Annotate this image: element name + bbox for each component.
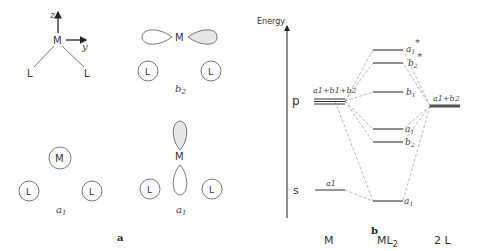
orbital-a1-s: M L L a1 (19, 147, 102, 217)
s-level-label: a1 (326, 179, 336, 188)
a1s-ligand-right: L (89, 187, 94, 197)
a1s-metal-label: M (55, 153, 64, 164)
correlation-lines (335, 50, 430, 201)
lobe-top-icon (173, 121, 187, 150)
energy-axis: Energy (257, 17, 287, 218)
y-axis-label: y (81, 41, 88, 52)
metal-levels: p a1+b1+b2 s a1 M (292, 86, 357, 247)
a1s-ligand-left: L (26, 187, 31, 197)
label-b2: b2 (405, 137, 415, 148)
bond-right (62, 46, 84, 67)
mo-diagram-figure: z y M L L M L L b2 M L L a1 M L L a1 (0, 0, 477, 251)
b2-ligand-left: L (145, 67, 150, 77)
orbital-b2: M L L b2 (138, 30, 221, 96)
coordinate-frame: z y M L L (27, 9, 90, 79)
ligand-level-label: a1+b2 (433, 94, 460, 103)
energy-axis-label: Energy (257, 17, 285, 26)
b2-metal-label: M (175, 32, 184, 43)
ligand-column-label: 2 L (434, 234, 451, 247)
label-b2-star: b2* (408, 52, 423, 69)
a1s-symmetry-label: a1 (56, 204, 66, 217)
label-b1: b1 (406, 87, 416, 98)
a1p-ligand-right: L (209, 185, 214, 195)
s-label: s (293, 184, 299, 197)
p-label: p (292, 94, 300, 108)
z-axis-label: z (49, 9, 56, 20)
ligand-left-label: L (27, 68, 33, 79)
panel-a-caption: a (117, 232, 124, 243)
lobe-right-icon (188, 30, 217, 44)
label-a1: a1 (405, 124, 414, 135)
p-level-label: a1+b1+b2 (313, 86, 357, 95)
metal-column-label: M (324, 234, 334, 247)
a1p-ligand-left: L (147, 185, 152, 195)
b2-ligand-right: L (208, 67, 213, 77)
bond-left (34, 46, 54, 67)
a1p-symmetry-label: a1 (176, 204, 186, 217)
ligand-levels: a1+b2 2 L (430, 94, 460, 247)
p-level-line (314, 99, 345, 104)
ligand-level-line (430, 105, 460, 108)
label-a1-lowest: a1 (404, 196, 413, 207)
metal-label: M (53, 35, 62, 46)
orbital-a1-p: M L L a1 (140, 121, 222, 217)
complex-levels: a1* b2* b1 a1 b2 a1 ML2 (373, 38, 423, 249)
ligand-right-label: L (84, 68, 90, 79)
panel-b-caption: b (371, 225, 378, 236)
b2-symmetry-label: b2 (175, 83, 186, 96)
a1p-metal-label: M (175, 151, 184, 162)
complex-column-label: ML2 (377, 234, 398, 249)
lobe-bottom-icon (173, 165, 187, 195)
lobe-left-icon (142, 30, 172, 44)
